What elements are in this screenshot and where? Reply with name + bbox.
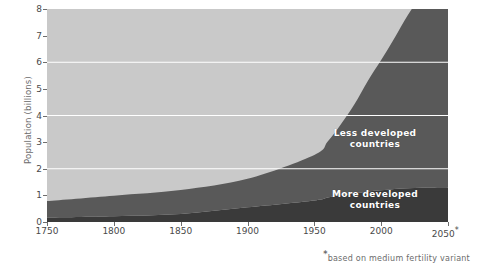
- footnote-text: based on medium fertility variant: [328, 254, 470, 263]
- x-tick-mark: [448, 222, 449, 226]
- series-label-more-developed: More developed countries: [315, 189, 435, 212]
- x-tick-mark: [47, 222, 48, 226]
- x-tick-label: 2050*: [432, 226, 459, 239]
- population-area-chart: Population (billions) 012345678 Less dev…: [0, 0, 478, 278]
- y-tick-label: 8: [28, 5, 42, 14]
- series-label-less-developed: Less developed countries: [315, 128, 435, 151]
- y-tick-label: 1: [28, 191, 42, 200]
- x-tick-label: 1900: [236, 226, 259, 236]
- y-tick-label: 4: [28, 111, 42, 120]
- y-tick-label: 2: [28, 164, 42, 173]
- y-tick-label: 6: [28, 58, 42, 67]
- x-tick-mark: [181, 222, 182, 226]
- plot-area: Less developed countries More developed …: [47, 9, 448, 222]
- x-tick-label: 1850: [169, 226, 192, 236]
- y-tick-label: 3: [28, 138, 42, 147]
- area-series-less-developed: [47, 9, 448, 217]
- x-tick-mark: [314, 222, 315, 226]
- chart-footnote: *based on medium fertility variant: [0, 250, 470, 263]
- x-tick-label: 2000: [370, 226, 393, 236]
- y-tick-label: 5: [28, 84, 42, 93]
- y-axis-ticks: 012345678: [26, 0, 42, 278]
- x-tick-mark: [248, 222, 249, 226]
- x-tick-label: 1750: [36, 226, 59, 236]
- y-tick-label: 7: [28, 31, 42, 40]
- x-tick-asterisk: *: [455, 226, 459, 235]
- x-tick-mark: [381, 222, 382, 226]
- x-tick-label: 1950: [303, 226, 326, 236]
- x-tick-label: 1800: [102, 226, 125, 236]
- x-tick-mark: [114, 222, 115, 226]
